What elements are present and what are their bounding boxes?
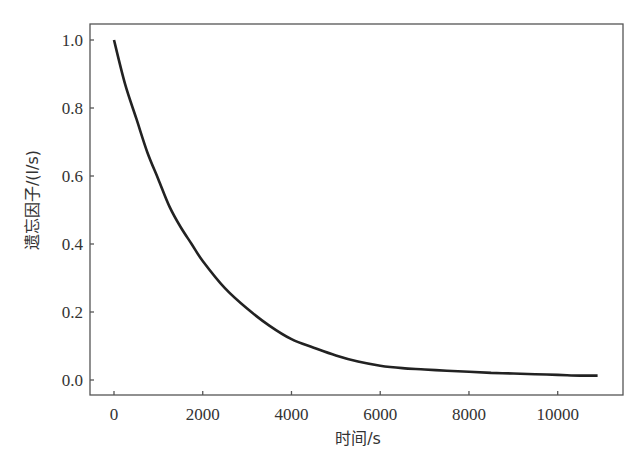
y-tick-label: 0.4 [62, 235, 84, 254]
y-axis: 0.00.20.40.60.81.0 [62, 31, 94, 390]
y-axis-label: 遗忘因子/(l/s) [23, 150, 42, 250]
x-tick-label: 8000 [452, 405, 486, 424]
x-tick-label: 2000 [186, 405, 220, 424]
y-tick-label: 1.0 [62, 31, 83, 50]
x-tick-label: 0 [110, 405, 119, 424]
x-tick-label: 4000 [274, 405, 308, 424]
line-chart: 0.00.20.40.60.81.0 020004000600080001000… [0, 0, 641, 472]
x-axis-label: 时间/s [335, 429, 381, 448]
x-tick-label: 10000 [536, 405, 579, 424]
y-tick-label: 0.2 [62, 303, 83, 322]
x-tick-label: 6000 [363, 405, 397, 424]
y-tick-label: 0.6 [62, 167, 83, 186]
x-axis: 0200040006000800010000 [110, 391, 579, 424]
y-tick-label: 0.8 [62, 99, 83, 118]
y-tick-label: 0.0 [62, 371, 83, 390]
